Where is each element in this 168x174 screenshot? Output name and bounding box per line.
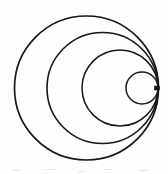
tangency-point-marker [155, 86, 160, 90]
figure-canvas [0, 0, 168, 174]
tangent-circles-diagram [0, 0, 168, 174]
paper-background [0, 0, 168, 174]
